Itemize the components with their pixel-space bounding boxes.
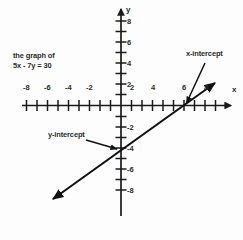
y-tick-label--4: -4 <box>127 144 133 153</box>
y-tick-label-4: 4 <box>127 59 131 68</box>
x-tick-label--8: -8 <box>23 83 29 92</box>
y-tick-label--8: -8 <box>127 186 133 195</box>
y-intercept-label: y-intercept <box>48 130 85 139</box>
y-axis <box>116 9 127 216</box>
y-intercept-pointer <box>86 140 117 149</box>
x-intercept-label: x-intercept <box>186 49 223 58</box>
caption-line-1: the graph of <box>13 51 55 61</box>
x-tick-label--4: -4 <box>65 83 71 92</box>
caption-line-2: 5x - 7y = 30 <box>13 61 55 71</box>
x-tick-label--6: -6 <box>44 83 50 92</box>
y-tick-label-6: 6 <box>127 38 131 47</box>
y-tick-label--2: -2 <box>127 123 133 132</box>
equation-note: the graph of 5x - 7y = 30 <box>13 51 55 70</box>
x-axis <box>22 100 231 111</box>
x-tick-label-8: 8 <box>204 83 208 92</box>
coordinate-plane <box>0 0 243 240</box>
y-tick-label-8: 8 <box>127 17 131 26</box>
x-tick-label--2: -2 <box>86 83 92 92</box>
x-tick-label-6: 6 <box>182 83 186 92</box>
y-tick-label--6: -6 <box>127 165 133 174</box>
x-tick-label-4: 4 <box>151 83 155 92</box>
x-axis-label: x <box>232 85 236 94</box>
y-tick-label-2: 2 <box>127 80 131 89</box>
graph-figure: -8 -6 -4 -2 2 4 6 8 8 6 4 2 -2 -4 -6 -8 … <box>0 0 243 240</box>
y-axis-label: y <box>126 5 130 14</box>
graph-line <box>53 83 215 199</box>
